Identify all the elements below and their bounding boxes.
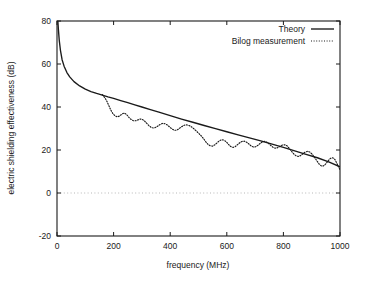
legend-label-2: Bilog measurement — [232, 36, 306, 46]
y-tick-label: 40 — [42, 102, 52, 112]
x-tick-label: 600 — [220, 241, 234, 251]
chart-figure: 02004006008001000 -20020406080 frequency… — [0, 0, 368, 282]
y-axis-label: electric shielding effectiveness (dB) — [6, 61, 16, 194]
x-tick-label: 400 — [163, 241, 177, 251]
y-tick-label: 80 — [42, 16, 52, 26]
x-tick-label: 0 — [55, 241, 60, 251]
x-axis-label: frequency (MHz) — [167, 260, 230, 270]
legend-label-1: Theory — [279, 24, 306, 34]
y-tick-label: 60 — [42, 59, 52, 69]
x-tick-label: 1000 — [331, 241, 350, 251]
y-tick-label: 20 — [42, 145, 52, 155]
x-tick-label: 800 — [276, 241, 290, 251]
chart-background — [0, 0, 368, 282]
y-tick-label: -20 — [39, 231, 52, 241]
y-tick-label: 0 — [46, 188, 51, 198]
x-tick-label: 200 — [107, 241, 121, 251]
shielding-effectiveness-chart: 02004006008001000 -20020406080 frequency… — [0, 0, 368, 282]
